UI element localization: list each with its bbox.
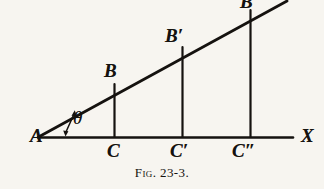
label-vertex-a: A <box>30 126 43 145</box>
label-angle-theta: θ <box>73 108 82 127</box>
figure-container: A θ B B′ B″ C C′ C″ X Fig. 23-3. <box>0 0 324 189</box>
label-foot-c: C <box>107 141 120 160</box>
label-point-b: B <box>104 61 117 80</box>
geometry-diagram <box>0 0 324 189</box>
figure-caption: Fig. 23-3. <box>0 165 324 181</box>
label-foot-c-double-prime: C″ <box>232 141 255 160</box>
caption-text: Fig. 23-3. <box>135 165 189 180</box>
label-axis-x: X <box>301 126 314 145</box>
label-foot-c-prime: C′ <box>170 141 188 160</box>
label-point-b-double-prime: B″ <box>240 0 263 11</box>
label-point-b-prime: B′ <box>165 26 183 45</box>
